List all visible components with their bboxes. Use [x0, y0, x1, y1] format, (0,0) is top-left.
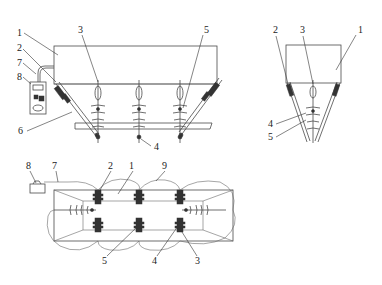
controller-box — [30, 82, 46, 114]
label-1: 1 — [17, 27, 22, 38]
controller-box-top — [30, 181, 45, 193]
frame-outer — [54, 190, 233, 241]
label-2: 2 — [17, 42, 22, 53]
label-5: 5 — [102, 255, 107, 266]
hopper-body — [54, 46, 217, 84]
label-6: 6 — [18, 125, 23, 136]
side-view: 2 3 1 4 5 — [268, 24, 363, 143]
label-7: 7 — [17, 57, 22, 68]
label-7: 7 — [52, 160, 57, 171]
label-4: 4 — [154, 141, 159, 152]
nozzle-clusters — [93, 190, 185, 232]
nozzle-assembly-1 — [91, 80, 105, 143]
top-view: 8 7 2 1 9 5 4 3 — [26, 160, 235, 266]
patent-figure: 1 2 7 8 3 5 6 4 2 3 1 4 — [0, 0, 382, 285]
label-1: 1 — [358, 24, 363, 35]
right-nozzle-arm — [179, 78, 222, 137]
nozzle-assembly-2 — [132, 80, 146, 143]
label-8: 8 — [17, 71, 22, 82]
label-5: 5 — [204, 24, 209, 35]
hopper-side — [286, 45, 341, 83]
front-view: 1 2 7 8 3 5 6 4 — [17, 24, 222, 152]
label-3: 3 — [78, 24, 83, 35]
label-8: 8 — [26, 160, 31, 171]
label-4: 4 — [268, 118, 273, 129]
nozzle-assembly-3 — [173, 80, 187, 143]
label-5: 5 — [268, 131, 273, 142]
label-3: 3 — [195, 255, 200, 266]
label-2: 2 — [273, 24, 278, 35]
label-4: 4 — [152, 255, 157, 266]
label-2: 2 — [108, 160, 113, 171]
label-1: 1 — [129, 160, 134, 171]
label-3: 3 — [300, 24, 305, 35]
label-9: 9 — [162, 160, 167, 171]
